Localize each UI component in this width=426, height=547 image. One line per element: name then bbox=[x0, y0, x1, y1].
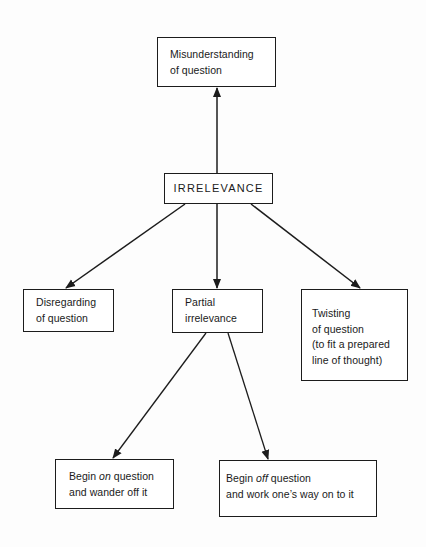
node-begin-on-question: Begin on question and wander off it bbox=[55, 459, 174, 509]
node-twisting-of-question: Twisting of question (to fit a prepared … bbox=[301, 289, 408, 381]
edge-irrelevance-to-disregarding bbox=[66, 204, 185, 288]
node-label-line: Twisting bbox=[312, 306, 407, 322]
edge-partial-to-begin-off bbox=[228, 333, 268, 459]
node-label-line: (to fit a prepared bbox=[312, 337, 407, 353]
node-label-line: line of thought) bbox=[312, 353, 407, 369]
label-suffix: question bbox=[111, 470, 154, 482]
node-misunderstanding-of-question: Misunderstanding of question bbox=[157, 37, 276, 87]
node-label-line: and work one’s way on to it bbox=[226, 487, 376, 503]
node-label-line: of question bbox=[36, 311, 113, 327]
diagram-canvas: Misunderstanding of question IRRELEVANCE… bbox=[0, 0, 426, 547]
node-label-line: Begin off question bbox=[226, 471, 376, 487]
node-label-line: Misunderstanding bbox=[170, 47, 275, 63]
edge-irrelevance-to-twisting bbox=[251, 204, 360, 288]
node-label-line: Begin on question bbox=[69, 469, 173, 485]
label-prefix: Begin bbox=[69, 470, 99, 482]
label-emphasis: on bbox=[99, 470, 111, 482]
node-label-line: and wander off it bbox=[69, 485, 173, 501]
node-disregarding-of-question: Disregarding of question bbox=[23, 289, 114, 332]
node-label-line: Disregarding bbox=[36, 295, 113, 311]
node-irrelevance-root: IRRELEVANCE bbox=[164, 173, 273, 204]
node-label-line: of question bbox=[170, 63, 275, 79]
edge-partial-to-begin-on bbox=[113, 333, 206, 458]
label-emphasis: off bbox=[256, 472, 268, 484]
label-suffix: question bbox=[268, 472, 311, 484]
node-label-line: irrelevance bbox=[185, 311, 262, 327]
node-label-line: of question bbox=[312, 322, 407, 338]
label-prefix: Begin bbox=[226, 472, 256, 484]
node-label-line: Partial bbox=[185, 295, 262, 311]
node-begin-off-question: Begin off question and work one’s way on… bbox=[219, 460, 377, 517]
node-partial-irrelevance: Partial irrelevance bbox=[172, 289, 263, 333]
node-label-line: IRRELEVANCE bbox=[165, 181, 272, 197]
